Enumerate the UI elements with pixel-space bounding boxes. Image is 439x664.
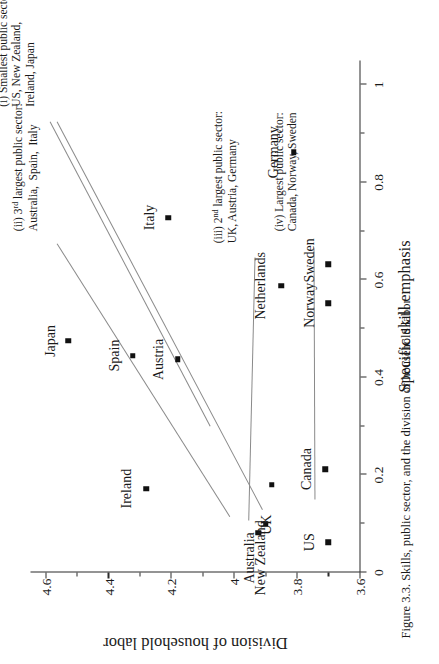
x-tick-major: [360, 181, 366, 182]
data-point-label: Austria: [150, 338, 166, 379]
x-tick-minor: [360, 132, 364, 133]
annotation-line: UK, Austria, Germany: [225, 111, 239, 243]
annotation-line: (iii) 2nd largest public sector:: [210, 111, 225, 243]
figure-page: 00.20.40.60.81 3.63.844.24.44.6 Specific…: [0, 0, 439, 664]
x-tick-label: 1: [370, 81, 386, 88]
annotation-group-i: (i) Smallest public sector:US, New Zeala…: [0, 0, 36, 106]
y-tick-minor: [76, 572, 77, 576]
y-axis-line: [30, 571, 360, 572]
scatter-plot: 00.20.40.60.81 3.63.844.24.44.6 Specific…: [30, 60, 360, 572]
x-tick-minor: [360, 425, 364, 426]
x-tick-minor: [360, 522, 364, 523]
y-tick-major: [170, 572, 171, 578]
data-point-marker: [325, 300, 331, 306]
annotation-line: (ii) 3rd largest public sector:: [10, 103, 25, 231]
x-tick-major: [360, 376, 366, 377]
data-point-label: Italy: [141, 204, 157, 230]
y-tick-minor: [139, 572, 140, 576]
annotation-line: US, New Zealand,: [9, 0, 23, 106]
data-point-label: UK: [258, 514, 274, 534]
data-point-label: Canada: [298, 448, 314, 490]
annotation-line: (iv) Largest public sector:: [272, 112, 286, 231]
data-point-label: Norway: [301, 282, 317, 327]
data-point-marker: [129, 352, 135, 358]
figure-caption: Figure 3.3. Skills, public sector, and t…: [398, 299, 413, 638]
x-tick-label: 0.6: [370, 271, 386, 288]
annotation-line: Ireland, Japan: [23, 0, 37, 106]
leader-line: [50, 121, 211, 426]
data-point-label: Netherlands: [252, 251, 268, 319]
x-tick-major: [360, 278, 366, 279]
annotation-line: (i) Smallest public sector:: [0, 0, 9, 106]
data-point-label: Ireland: [118, 468, 134, 508]
ordinal-superscript: nd: [210, 209, 219, 217]
data-point-marker: [269, 481, 275, 487]
y-tick-minor: [327, 572, 328, 576]
x-tick-minor: [360, 230, 364, 231]
annotation-group-ii: (ii) 3rd largest public sector:Australia…: [10, 103, 39, 231]
data-point-marker: [65, 338, 71, 344]
y-tick-label: 4.6: [38, 578, 54, 604]
y-tick-label: 3.8: [289, 578, 305, 604]
x-tick-label: 0.8: [370, 173, 386, 190]
data-point-label: Sweden: [301, 238, 317, 282]
data-point-label: US: [301, 533, 317, 551]
data-point-marker: [174, 356, 180, 362]
x-tick-label: 0.2: [370, 466, 386, 483]
y-tick-major: [233, 572, 234, 578]
data-point-marker: [143, 485, 149, 491]
annotation-group-iv: (iv) Largest public sector:Canada, Norwa…: [272, 112, 299, 231]
y-axis-title: Division of household labor: [103, 632, 288, 652]
y-tick-major: [107, 572, 108, 578]
data-point-marker: [322, 466, 328, 472]
y-tick-label: 4.2: [163, 578, 179, 604]
data-point-label: Spain: [106, 339, 122, 371]
x-tick-major: [360, 571, 366, 572]
y-tick-label: 4: [226, 578, 242, 604]
data-point-marker: [325, 539, 331, 545]
y-tick-major: [296, 572, 297, 578]
y-tick-label: 4.4: [101, 578, 117, 604]
y-tick-minor: [202, 572, 203, 576]
x-tick-major: [360, 83, 366, 84]
x-tick-minor: [360, 327, 364, 328]
data-point-marker: [325, 261, 331, 267]
y-tick-major: [359, 572, 360, 578]
data-point-label: Japan: [42, 324, 58, 356]
y-tick-label: 3.6: [352, 578, 368, 604]
rotated-figure-canvas: 00.20.40.60.81 3.63.844.24.44.6 Specific…: [0, 0, 439, 664]
data-point-marker: [278, 283, 284, 289]
y-tick-major: [45, 572, 46, 578]
ordinal-superscript: rd: [10, 201, 19, 208]
x-axis-line: [359, 60, 360, 572]
x-tick-label: 0: [370, 569, 386, 576]
data-point-marker: [165, 214, 171, 220]
annotation-line: Australia, Spain, Italy: [26, 103, 40, 231]
x-tick-label: 0.4: [370, 369, 386, 386]
x-tick-major: [360, 473, 366, 474]
annotation-line: Canada, Norway, Sweden: [285, 112, 299, 231]
annotation-group-iii: (iii) 2nd largest public sector:UK, Aust…: [210, 111, 239, 243]
